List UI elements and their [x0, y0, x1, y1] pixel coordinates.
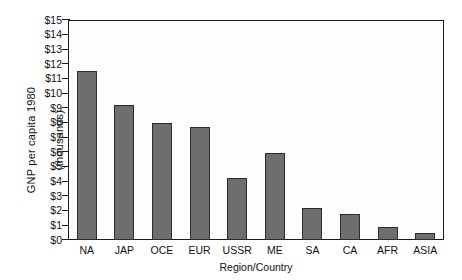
y-axis-tick-label: $0 — [28, 235, 62, 246]
y-axis-tick-label-wrap: $12 — [24, 59, 62, 70]
bar — [152, 123, 172, 240]
y-axis-tick-label-wrap: $9 — [24, 103, 62, 114]
y-axis-tick-label-wrap: $7 — [24, 132, 62, 143]
y-axis-tick-label: $3 — [28, 191, 62, 202]
y-axis-tick-label-wrap: $4 — [24, 176, 62, 187]
y-axis-tick-label: $6 — [28, 147, 62, 158]
y-axis-tick-label-wrap: $15 — [24, 15, 62, 26]
bar-chart-figure: GNP per capita 1980 (thousands) $0$1$2$3… — [0, 0, 462, 280]
bar — [415, 233, 435, 240]
y-axis-tick-label: $5 — [28, 161, 62, 172]
y-axis-tick-label: $7 — [28, 132, 62, 143]
bar — [378, 227, 398, 240]
y-axis-tick-label-wrap: $1 — [24, 220, 62, 231]
y-axis-tick-label: $15 — [28, 15, 62, 26]
y-axis-tick-label: $12 — [28, 59, 62, 70]
y-axis-tick-label: $8 — [28, 117, 62, 128]
bar — [340, 214, 360, 240]
y-axis-tick-label: $1 — [28, 220, 62, 231]
y-axis-tick-label-wrap: $10 — [24, 88, 62, 99]
y-axis-tick-label: $9 — [28, 103, 62, 114]
y-axis-tick-label-wrap: $2 — [24, 205, 62, 216]
y-axis-tick-label: $10 — [28, 88, 62, 99]
y-axis-tick-label: $2 — [28, 205, 62, 216]
y-axis-tick-label: $13 — [28, 44, 62, 55]
y-axis-tick-label-wrap: $11 — [24, 73, 62, 84]
y-axis-tick-label-wrap: $0 — [24, 235, 62, 246]
bar — [190, 127, 210, 240]
x-axis-title: Region/Country — [68, 261, 444, 273]
y-axis-tick-label: $4 — [28, 176, 62, 187]
bar — [114, 105, 134, 240]
y-axis-tick-label-wrap: $3 — [24, 191, 62, 202]
x-axis-tick-label: ASIA — [397, 244, 453, 256]
bar — [302, 208, 322, 240]
y-axis-tick-label-wrap: $8 — [24, 117, 62, 128]
y-axis-tick-label-wrap: $13 — [24, 44, 62, 55]
y-axis-tick-label-wrap: $14 — [24, 29, 62, 40]
bar — [227, 178, 247, 240]
y-axis-tick-label-wrap: $6 — [24, 147, 62, 158]
bar — [77, 71, 97, 240]
bar-series — [68, 20, 444, 240]
y-axis-tick-label: $11 — [28, 73, 62, 84]
bar — [265, 153, 285, 240]
y-axis-tick-label: $14 — [28, 29, 62, 40]
y-axis-tick-label-wrap: $5 — [24, 161, 62, 172]
